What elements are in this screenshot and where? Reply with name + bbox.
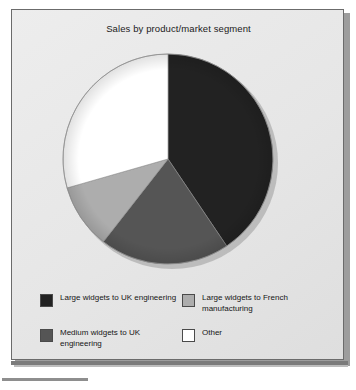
legend-swatch-black [40,294,53,307]
legend-item-label: Large widgets to French manufacturing [202,293,320,314]
legend-item-label: Other [202,328,222,339]
legend-item-other: Other [182,328,340,363]
legend-item-large-widgets-french: Large widgets to French manufacturing [182,293,340,328]
legend-swatch-dark-gray [40,329,53,342]
legend-item-label: Large widgets to UK engineering [60,293,176,304]
legend-item-medium-widgets-uk: Medium widgets to UK engineering [40,328,182,363]
legend-item-label: Medium widgets to UK engineering [60,328,178,349]
pie-chart-figure: Sales by product/market segment L [0,0,356,390]
pie-shading-overlay [63,54,273,264]
chart-legend: Large widgets to UK engineering Large wi… [40,293,340,363]
legend-swatch-white [182,329,195,342]
frame-bottom-edge-highlight [14,365,348,367]
legend-swatch-light-gray [182,294,195,307]
chart-title: Sales by product/market segment [12,23,345,34]
legend-item-large-widgets-uk: Large widgets to UK engineering [40,293,182,328]
chart-panel: Sales by product/market segment L [11,9,344,360]
caption-rule [2,378,88,381]
